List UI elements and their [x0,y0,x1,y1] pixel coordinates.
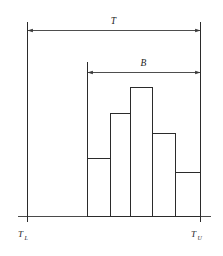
histogram-bar [153,134,176,217]
histogram-bars [88,88,201,217]
histogram-bar [88,159,111,217]
tolerance-histogram-figure: T B T L T U [0,0,223,256]
process-spread-label: B [141,58,147,68]
lower-limit-tick-label: T L [18,229,29,241]
histogram-bar [131,88,153,217]
upper-limit-symbol: T [191,229,197,239]
lower-limit-subscript: L [24,235,29,241]
upper-limit-subscript: U [198,235,203,241]
figure-container: T B T L T U [0,0,223,256]
total-tolerance-label: T [111,16,117,26]
upper-limit-tick-label: T U [191,229,203,241]
lower-limit-symbol: T [18,229,24,239]
histogram-bar [111,114,131,217]
histogram-bar [176,173,201,217]
